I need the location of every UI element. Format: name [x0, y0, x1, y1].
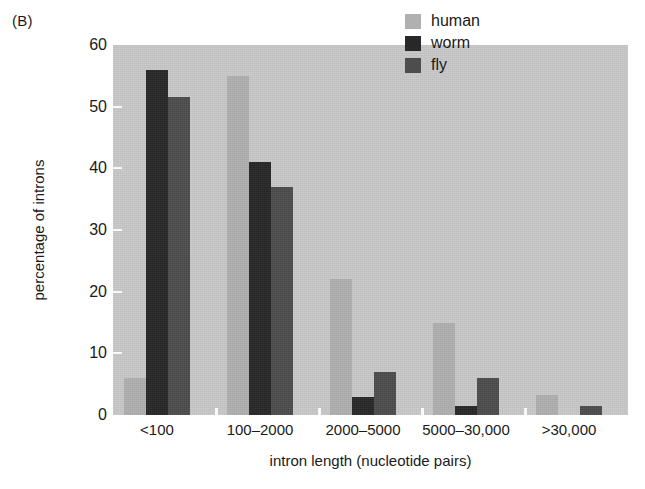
y-axis-tick-mark — [113, 352, 122, 354]
bar — [374, 372, 396, 415]
scan-noise-overlay — [113, 45, 628, 415]
bar — [477, 378, 499, 415]
x-axis-tick-labels: <100100–20002000–50005000–30,000>30,000 — [113, 421, 628, 443]
bar — [249, 162, 271, 415]
legend-item: fly — [405, 54, 525, 76]
legend-swatch-icon — [405, 36, 421, 51]
x-axis-tick-mark — [421, 408, 424, 415]
bar — [271, 187, 293, 415]
x-axis-tick-mark — [318, 408, 321, 415]
y-axis-title: percentage of introns — [30, 45, 47, 415]
legend-label: human — [431, 13, 480, 29]
x-axis-tick-mark — [524, 408, 527, 415]
x-axis-tick-label: >30,000 — [542, 421, 597, 438]
legend-label: worm — [431, 35, 470, 51]
legend-swatch-icon — [405, 58, 421, 73]
y-axis-tick-mark — [113, 291, 122, 293]
x-axis-tick-label: 5000–30,000 — [422, 421, 510, 438]
panel-label: (B) — [12, 12, 33, 29]
y-axis-tick-label: 30 — [61, 222, 107, 238]
bar — [146, 70, 168, 415]
bar — [330, 279, 352, 415]
y-axis-tick-label: 10 — [61, 345, 107, 361]
plot-area — [113, 45, 628, 415]
bar — [352, 397, 374, 416]
bar — [455, 406, 477, 415]
bar — [580, 406, 602, 415]
y-axis-tick-mark — [113, 229, 122, 231]
bar — [433, 323, 455, 416]
bar — [168, 97, 190, 415]
x-axis-tick-label: <100 — [140, 421, 174, 438]
y-axis-tick-label: 50 — [61, 99, 107, 115]
x-axis-tick-label: 2000–5000 — [325, 421, 400, 438]
y-axis-tick-labels: 0102030405060 — [57, 45, 107, 415]
x-axis-title: intron length (nucleotide pairs) — [113, 452, 628, 469]
y-axis-tick-mark — [113, 167, 122, 169]
bar — [536, 395, 558, 415]
x-axis-tick-label: 100–2000 — [227, 421, 294, 438]
y-axis-tick-label: 60 — [61, 37, 107, 53]
x-axis-tick-mark — [215, 408, 218, 415]
legend-item: human — [405, 10, 525, 32]
legend: humanwormfly — [405, 10, 525, 76]
bar — [124, 378, 146, 415]
y-axis-tick-mark — [113, 106, 122, 108]
legend-item: worm — [405, 32, 525, 54]
y-axis-tick-label: 20 — [61, 284, 107, 300]
bar — [227, 76, 249, 415]
y-axis-tick-label: 40 — [61, 160, 107, 176]
legend-swatch-icon — [405, 14, 421, 29]
y-axis-tick-label: 0 — [61, 407, 107, 423]
legend-label: fly — [431, 57, 447, 73]
